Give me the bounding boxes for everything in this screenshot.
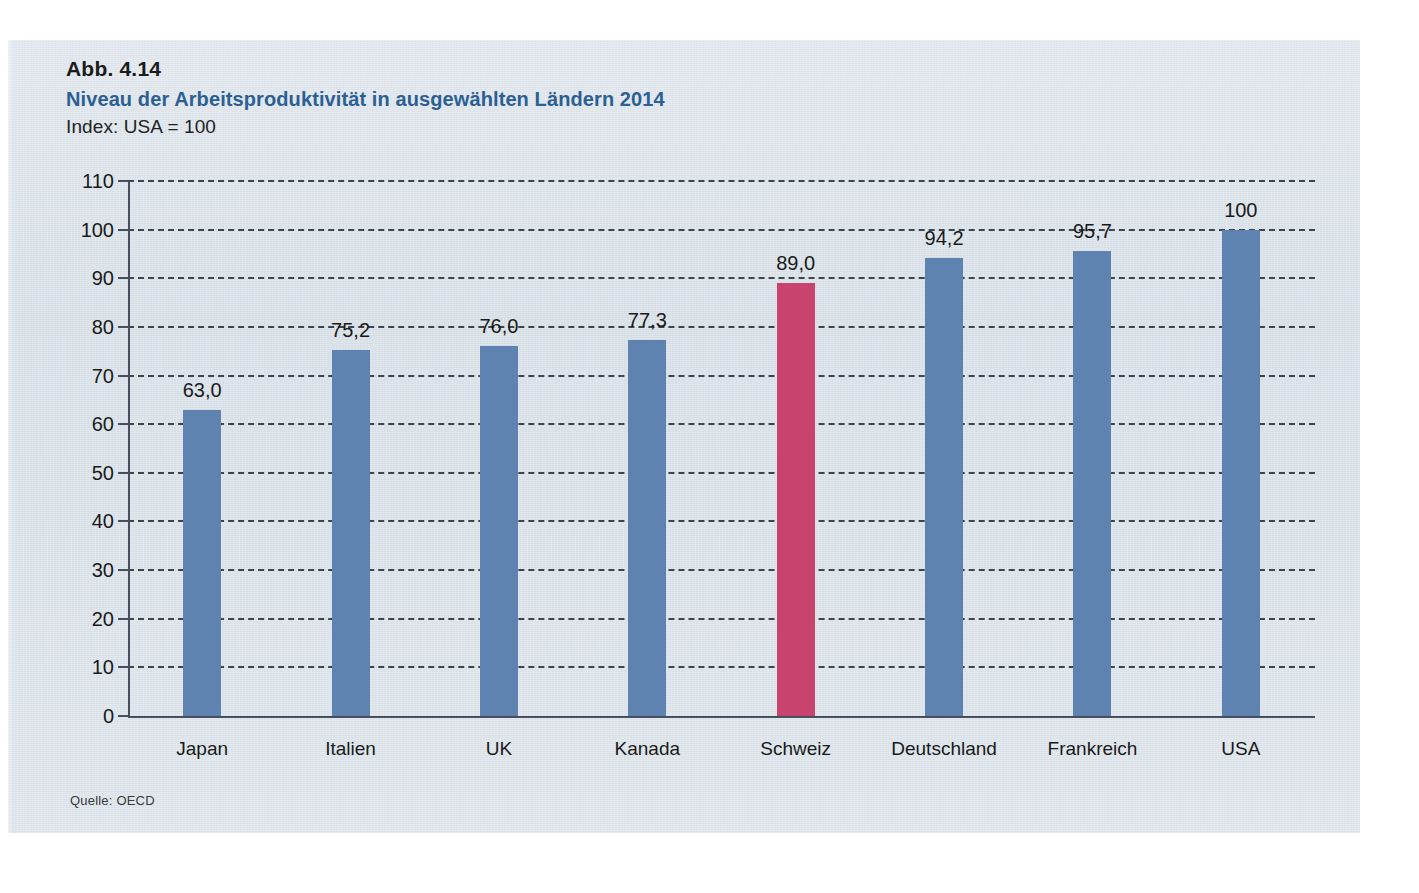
y-axis-tick-label: 50 (56, 461, 114, 484)
bar-rect[interactable] (628, 340, 666, 716)
gridline (128, 423, 1315, 425)
bar-value-label: 100 (1196, 199, 1286, 222)
bar-japan[interactable] (183, 410, 221, 716)
bar-kanada[interactable] (628, 340, 666, 716)
gridline (128, 520, 1315, 522)
bar-schweiz[interactable] (777, 283, 815, 716)
bar-rect[interactable] (777, 283, 815, 716)
bar-value-label: 89,0 (751, 252, 841, 275)
bar-rect[interactable] (332, 350, 370, 716)
y-axis-tick-label: 30 (56, 559, 114, 582)
bar-value-label: 94,2 (899, 227, 989, 250)
y-axis-tick-label: 10 (56, 656, 114, 679)
figure-subtitle: Index: USA = 100 (66, 116, 216, 138)
bar-rect[interactable] (1222, 230, 1260, 716)
gridline (128, 277, 1315, 279)
bar-frankreich[interactable] (1073, 251, 1111, 716)
y-axis-tick-label: 40 (56, 510, 114, 533)
bar-value-label: 77,3 (602, 309, 692, 332)
gridline (128, 666, 1315, 668)
gridline (128, 180, 1315, 182)
gridline (128, 618, 1315, 620)
y-axis-tick-label: 70 (56, 364, 114, 387)
figure-source: Quelle: OECD (70, 793, 155, 808)
y-axis-tick-label: 110 (56, 170, 114, 193)
bar-rect[interactable] (925, 258, 963, 716)
bar-usa[interactable] (1222, 230, 1260, 716)
x-axis-line (128, 716, 1315, 718)
bar-rect[interactable] (480, 346, 518, 716)
bar-italien[interactable] (332, 350, 370, 716)
bar-uk[interactable] (480, 346, 518, 716)
bar-rect[interactable] (1073, 251, 1111, 716)
y-axis-tick-label: 0 (56, 705, 114, 728)
y-axis-tick-label: 100 (56, 218, 114, 241)
x-axis-label-usa: USA (1146, 738, 1336, 760)
y-axis-tick-label: 20 (56, 607, 114, 630)
bar-deutschland[interactable] (925, 258, 963, 716)
bar-value-label: 63,0 (157, 379, 247, 402)
y-axis-tick-label: 60 (56, 413, 114, 436)
figure-title: Niveau der Arbeitsproduktivität in ausge… (66, 88, 665, 111)
gridline (128, 569, 1315, 571)
y-axis-tick-label: 90 (56, 267, 114, 290)
bar-value-label: 95,7 (1047, 220, 1137, 243)
gridline (128, 375, 1315, 377)
figure-number: Abb. 4.14 (66, 57, 161, 81)
bar-value-label: 75,2 (306, 319, 396, 342)
bar-rect[interactable] (183, 410, 221, 716)
y-axis-tick-label: 80 (56, 315, 114, 338)
gridline (128, 472, 1315, 474)
y-axis-line (128, 181, 130, 716)
bar-value-label: 76,0 (454, 315, 544, 338)
